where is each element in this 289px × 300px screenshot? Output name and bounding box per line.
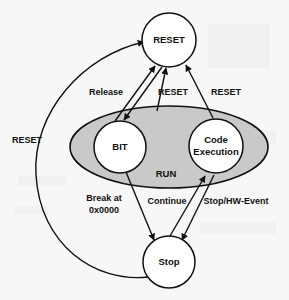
- edge-label-reset-left: RESET: [12, 135, 43, 145]
- edge-label-release: Release: [89, 87, 123, 97]
- edge-label-break-at-line2: 0x0000: [89, 205, 119, 215]
- state-diagram-canvas: RESET BIT Code Execution Stop RUN Releas…: [0, 0, 289, 300]
- state-label-code-execution-line2: Execution: [193, 146, 239, 157]
- edge-label-reset-center: RESET: [158, 87, 189, 97]
- state-label-stop: Stop: [158, 256, 179, 267]
- edge-label-stop-hw-event: Stop/HW-Event: [204, 196, 269, 206]
- edge-label-reset-right: RESET: [211, 87, 242, 97]
- state-diagram-graphic: RESET BIT Code Execution Stop RUN Releas…: [0, 0, 289, 300]
- state-label-reset: RESET: [153, 34, 185, 45]
- edge-label-break-at-line1: Break at: [86, 193, 122, 203]
- edge-label-continue: Continue: [148, 196, 187, 206]
- region-label-run: RUN: [156, 168, 177, 179]
- state-label-code-execution-line1: Code: [204, 134, 228, 145]
- state-label-bit: BIT: [112, 141, 128, 152]
